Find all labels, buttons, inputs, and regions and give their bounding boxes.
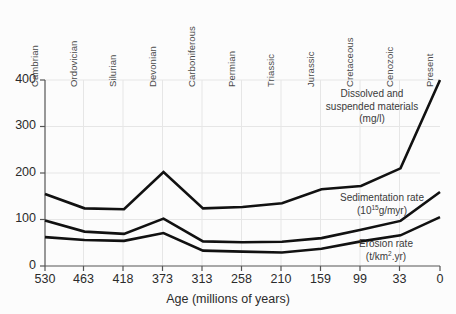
annotation-erosion-line1: Erosion rate — [330, 238, 442, 251]
x-tick-label-258: 258 — [220, 272, 264, 286]
period-label-present: Present — [424, 54, 435, 87]
x-tick-label-373: 373 — [141, 272, 185, 286]
annotation-dissolved-line3: (mg/l) — [302, 113, 442, 126]
x-tick-label-210: 210 — [259, 272, 303, 286]
annotation-erosion-rate: Erosion rate (t/km2.yr) — [330, 238, 442, 263]
y-axis-ticks — [40, 80, 45, 266]
y-tick-label-0: 0 — [2, 258, 36, 272]
x-tick-label-530: 530 — [23, 272, 67, 286]
annotation-sedimentation-unit-prefix: (10 — [357, 205, 371, 216]
x-tick-label-313: 313 — [180, 272, 224, 286]
period-label-triassic: Triassic — [265, 54, 276, 87]
annotation-dissolved-line1: Dissolved and — [302, 88, 442, 101]
y-tick-label-400: 400 — [2, 72, 36, 86]
y-tick-label-200: 200 — [2, 165, 36, 179]
x-tick-label-463: 463 — [62, 272, 106, 286]
x-tick-label-0: 0 — [418, 272, 456, 286]
annotation-sedimentation-unit: (1015g/myr) — [318, 205, 446, 218]
annotation-dissolved-materials: Dissolved and suspended materials (mg/l) — [302, 88, 442, 126]
annotation-erosion-unit-prefix: (t/km — [366, 251, 388, 262]
annotation-sedimentation-line1: Sedimentation rate — [318, 192, 446, 205]
x-tick-label-159: 159 — [299, 272, 343, 286]
annotation-sedimentation-rate: Sedimentation rate (1015g/myr) — [318, 192, 446, 217]
annotation-erosion-unit: (t/km2.yr) — [330, 251, 442, 264]
y-tick-label-100: 100 — [2, 211, 36, 225]
annotation-sedimentation-unit-exponent: 15 — [371, 203, 378, 210]
x-tick-label-99: 99 — [338, 272, 382, 286]
period-label-cretaceous: Cretaceous — [344, 37, 355, 87]
annotation-dissolved-line2: suspended materials — [302, 101, 442, 114]
period-label-silurian: Silurian — [107, 55, 118, 87]
period-label-permian: Permian — [226, 51, 237, 87]
x-tick-label-33: 33 — [378, 272, 422, 286]
period-label-ordovician: Ordovician — [68, 41, 79, 87]
period-label-carboniferous: Carboniferous — [186, 26, 197, 87]
y-tick-label-300: 300 — [2, 118, 36, 132]
period-label-jurassic: Jurassic — [305, 51, 316, 87]
period-label-devonian: Devonian — [147, 46, 158, 87]
chart-figure: Cambrian Ordovician Silurian Devonian Ca… — [0, 0, 456, 314]
x-axis-ticks — [45, 266, 440, 271]
period-label-cenozoic: Cenozoic — [384, 47, 395, 87]
x-tick-label-418: 418 — [101, 272, 145, 286]
annotation-sedimentation-unit-suffix: g/myr) — [379, 205, 407, 216]
x-axis-title: Age (millions of years) — [0, 292, 456, 306]
annotation-erosion-unit-suffix: .yr) — [392, 251, 406, 262]
